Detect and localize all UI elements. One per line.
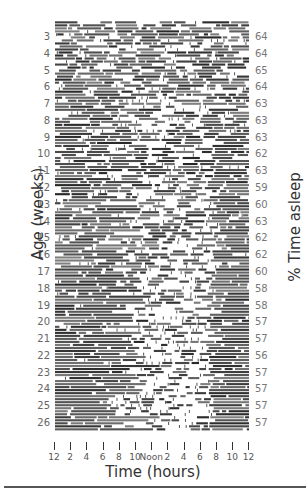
week-label: 6 [22,81,50,92]
x-axis-title: Time (hours) [0,463,306,481]
x-tick [248,442,249,450]
percent-label: 57 [255,400,268,411]
week-label: 8 [22,115,50,126]
x-tick [70,442,71,450]
percent-label: 63 [255,165,268,176]
x-tick [232,442,233,450]
x-tick-label: 12 [233,452,263,462]
x-tick [167,442,168,450]
percent-label: 60 [255,266,268,277]
week-label: 4 [22,48,50,59]
x-tick [184,442,185,450]
percent-label: 63 [255,115,268,126]
right-axis-title: % Time asleep [286,172,304,282]
x-tick [216,442,217,450]
percent-label: 57 [255,367,268,378]
week-label: 19 [22,300,50,311]
week-label: 22 [22,350,50,361]
percent-label: 57 [255,383,268,394]
week-label: 9 [22,132,50,143]
percent-label: 57 [255,333,268,344]
week-label: 21 [22,333,50,344]
percent-label: 62 [255,249,268,260]
week-label: 10 [22,148,50,159]
x-tick [103,442,104,450]
percent-label: 63 [255,216,268,227]
percent-label: 63 [255,98,268,109]
week-label: 20 [22,316,50,327]
week-label: 17 [22,266,50,277]
x-tick [86,442,87,450]
percent-label: 56 [255,350,268,361]
percent-label: 65 [255,65,268,76]
x-tick [151,442,152,450]
week-label: 23 [22,367,50,378]
week-label: 26 [22,417,50,428]
y-axis-title: Age (weeks) [29,164,47,264]
percent-label: 57 [255,316,268,327]
actogram-plot [55,21,249,431]
percent-label: 59 [255,182,268,193]
percent-label: 64 [255,81,268,92]
week-label: 24 [22,383,50,394]
percent-label: 62 [255,148,268,159]
x-tick [54,442,55,450]
percent-label: 58 [255,300,268,311]
x-tick [200,442,201,450]
x-tick [119,442,120,450]
x-tick [135,442,136,450]
percent-label: 57 [255,417,268,428]
week-label: 5 [22,65,50,76]
caption-divider [4,486,306,488]
percent-label: 63 [255,132,268,143]
percent-label: 58 [255,283,268,294]
week-label: 25 [22,400,50,411]
week-label: 3 [22,31,50,42]
percent-label: 64 [255,48,268,59]
percent-label: 60 [255,199,268,210]
week-label: 18 [22,283,50,294]
percent-label: 64 [255,31,268,42]
percent-label: 62 [255,232,268,243]
week-label: 7 [22,98,50,109]
